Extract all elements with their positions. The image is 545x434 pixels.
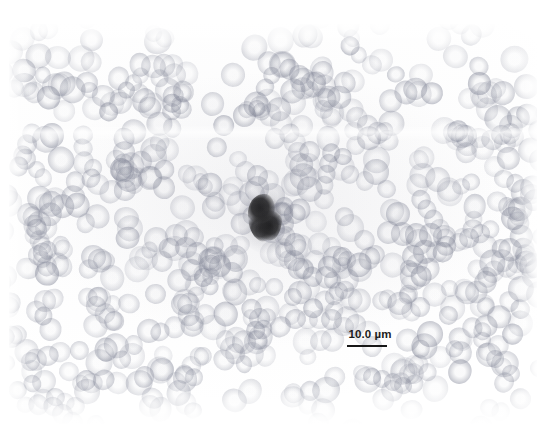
- erythrocyte: [206, 138, 226, 158]
- erythrocyte: [264, 277, 283, 296]
- erythrocyte: [511, 71, 537, 101]
- erythrocyte: [439, 305, 458, 324]
- erythrocyte: [174, 391, 196, 415]
- erythrocyte: [9, 216, 18, 247]
- erythrocyte: [40, 123, 65, 149]
- micrograph-image: [9, 24, 537, 424]
- erythrocyte: [503, 126, 525, 146]
- erythrocyte: [9, 354, 15, 371]
- erythrocyte: [35, 261, 59, 286]
- scale-bar: 10.0 µm: [334, 328, 406, 352]
- erythrocyte: [216, 58, 250, 92]
- erythrocyte: [144, 282, 168, 305]
- erythrocyte: [113, 179, 136, 202]
- erythrocyte: [337, 416, 368, 424]
- erythrocyte: [83, 411, 108, 424]
- erythrocyte: [498, 44, 530, 75]
- micrograph-figure: 10.0 µm: [0, 0, 545, 434]
- erythrocyte: [367, 24, 394, 37]
- erythrocyte: [528, 357, 537, 379]
- erythrocyte: [400, 399, 423, 420]
- scale-bar-label: 10.0 µm: [334, 328, 406, 341]
- scale-bar-line: [347, 345, 387, 347]
